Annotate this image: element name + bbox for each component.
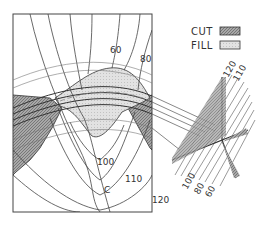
- legend-cut-label: CUT: [191, 26, 213, 37]
- centerline-marker: C: [104, 185, 110, 195]
- legend-fill-swatch: [220, 41, 240, 49]
- contour-label-60: 60: [110, 45, 122, 55]
- legend: CUT FILL: [191, 26, 240, 51]
- contour-label-110: 110: [125, 174, 142, 184]
- legend-cut-swatch: [220, 27, 240, 35]
- legend-fill-label: FILL: [191, 40, 213, 51]
- contour-label-100: 100: [97, 157, 114, 167]
- cut-area-left: [13, 95, 62, 175]
- cross-section: [172, 75, 255, 186]
- contour-label-80: 80: [140, 54, 152, 64]
- grading-plan-diagram: 60 80 100 110 120 C 120 110 100 80 60 CU…: [0, 0, 261, 235]
- contour-label-120: 120: [152, 195, 169, 205]
